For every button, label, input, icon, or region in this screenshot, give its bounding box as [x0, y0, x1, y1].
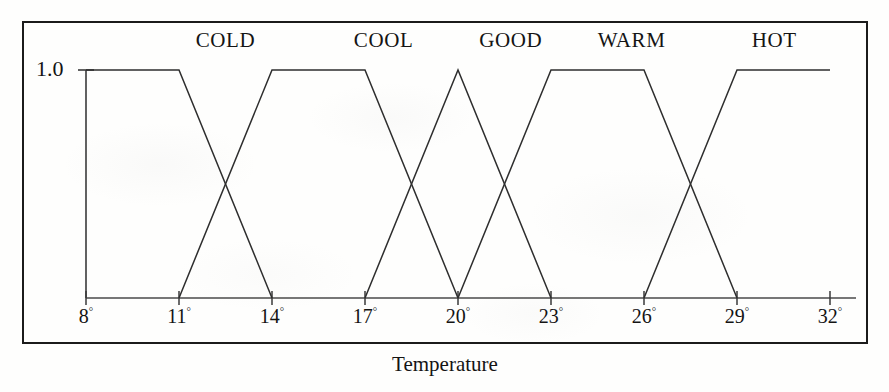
curve-cold	[86, 70, 272, 298]
x-tick-label-8: 8°	[79, 305, 93, 328]
axes	[78, 70, 856, 298]
y-axis-label: 1.0	[36, 56, 64, 82]
x-tick-label-26: 26°	[632, 305, 656, 328]
membership-curves	[86, 70, 830, 298]
x-tick-label-17: 17°	[353, 305, 377, 328]
x-tick-label-29: 29°	[725, 305, 749, 328]
membership-function-plot	[0, 0, 889, 392]
curve-warm	[458, 70, 737, 298]
x-tick-label-11: 11°	[167, 305, 191, 328]
x-axis-title: Temperature	[392, 352, 498, 377]
x-tick-label-32: 32°	[818, 305, 842, 328]
x-tick-label-20: 20°	[446, 305, 470, 328]
x-tick-label-23: 23°	[539, 305, 563, 328]
curve-good	[365, 70, 551, 298]
curve-label-cold: COLD	[196, 28, 256, 53]
figure-page: 1.0 COLD COOL GOOD WARM HOT 8° 11° 14° 1…	[0, 0, 889, 392]
curve-hot	[644, 70, 830, 298]
x-tick-label-14: 14°	[260, 305, 284, 328]
curve-label-good: GOOD	[479, 28, 542, 53]
curve-label-hot: HOT	[752, 28, 797, 53]
curve-cool	[179, 70, 458, 298]
curve-label-cool: COOL	[354, 28, 414, 53]
curve-label-warm: WARM	[598, 28, 666, 53]
